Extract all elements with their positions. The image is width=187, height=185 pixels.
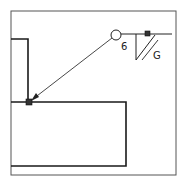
arrowhead-icon <box>31 93 39 101</box>
horizontal-plate <box>11 102 126 166</box>
field-weld-flag-icon <box>145 31 150 36</box>
weld-size-label: 6 <box>121 41 127 52</box>
vertical-member <box>11 39 28 102</box>
weld-all-around-icon <box>111 30 121 40</box>
arrow-leader <box>33 38 112 99</box>
finish-label: G <box>153 50 161 61</box>
welding-diagram: 6 G <box>0 0 187 185</box>
joint-marker-icon <box>26 99 32 105</box>
outer-frame <box>11 11 176 175</box>
